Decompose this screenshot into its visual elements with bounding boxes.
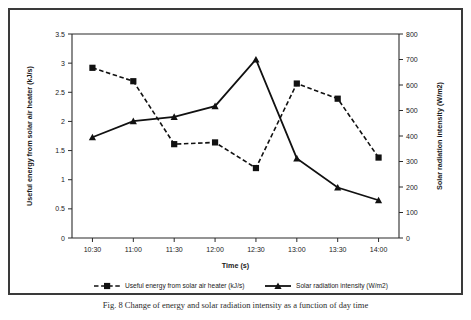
chart-frame: 00.511.522.533.5010020030040050060070080… [8,8,463,295]
left-axis-tick-label: 3.5 [55,31,65,38]
data-point-marker-square [130,78,136,84]
left-axis-tick-label: 0.5 [55,205,65,212]
data-point-marker-square [335,96,341,102]
chart-canvas: 00.511.522.533.5010020030040050060070080… [10,10,461,293]
x-axis-title: Time (s) [222,261,250,270]
data-point-marker-square [212,139,218,145]
legend-label-1: Useful energy from solar air heater (kJ/… [125,282,244,290]
x-axis-tick-label: 13:00 [288,246,306,253]
data-point-marker-triangle [252,56,259,63]
left-axis-tick-label: 1.5 [55,147,65,154]
chart-legend: Useful energy from solar air heater (kJ/… [94,282,388,290]
figure-container: 00.511.522.533.5010020030040050060070080… [0,0,471,320]
legend-label-2: Solar radiation intensity (W/m2) [296,282,388,290]
left-axis-tick-label: 3 [61,60,65,67]
right-axis-title: Solar radiation intensity (W/m2) [435,81,444,189]
right-axis-tick-label: 300 [406,158,418,165]
x-axis-tick-label: 12:30 [247,246,265,253]
data-point-marker-square [171,141,177,147]
left-axis-tick-label: 1 [61,176,65,183]
x-axis-tick-label: 14:00 [370,246,388,253]
right-axis-tick-label: 100 [406,209,418,216]
right-axis-tick-label: 0 [406,235,410,242]
right-axis-tick-label: 700 [406,56,418,63]
right-axis-tick-label: 800 [406,31,418,38]
left-axis-tick-label: 2 [61,118,65,125]
figure-caption: Fig. 8 Change of energy and solar radiat… [10,300,461,318]
x-axis-tick-label: 11:30 [166,246,183,253]
x-axis-tick-label: 11:00 [125,246,142,253]
data-point-marker-square [253,165,259,171]
left-axis-title: Useful energy from solar air heater (kJ/… [25,65,34,205]
right-axis-tick-label: 400 [406,133,418,140]
data-point-marker-triangle [293,155,300,162]
x-axis-tick-label: 12:00 [206,246,224,253]
legend-swatch-marker-1 [104,283,110,289]
right-axis-tick-label: 500 [406,107,418,114]
right-axis-tick-label: 200 [406,184,418,191]
left-axis-tick-label: 2.5 [55,89,65,96]
left-axis-tick-label: 0 [61,235,65,242]
x-axis-tick-label: 10:30 [84,246,102,253]
data-point-marker-square [89,65,95,71]
data-point-marker-square [375,154,381,160]
right-axis-tick-label: 600 [406,82,418,89]
x-axis-tick-label: 13:30 [329,246,347,253]
data-point-marker-square [294,80,300,86]
